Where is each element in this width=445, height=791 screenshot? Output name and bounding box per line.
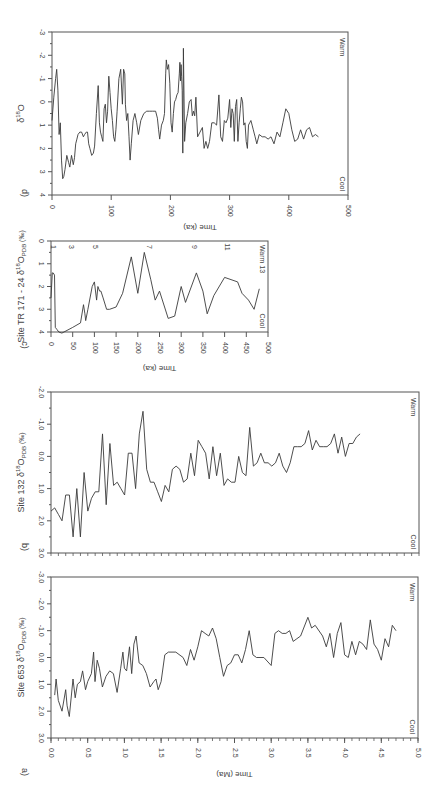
x-tick-label: 3.0 xyxy=(268,748,275,758)
panel-a: -3.0-2.0-1.00.01.02.03.00.00.51.01.52.02… xyxy=(15,571,422,779)
y-tick-label: -2.0 xyxy=(38,598,45,610)
x-tick-label: 400 xyxy=(286,205,293,217)
y-axis-title: Site 653 δ18OPDB (‰) xyxy=(15,617,27,697)
y-axis-title: Site TR 171 - 24 δ18OPDB (‰) xyxy=(15,230,27,343)
y-tick-label: -1 xyxy=(39,75,46,81)
panel-c: 01234050100150200250300350400450500Warm … xyxy=(15,230,272,373)
y-tick-label: -3 xyxy=(39,29,46,35)
y-tick-label: 1.0 xyxy=(38,679,45,689)
x-tick-label: 200 xyxy=(135,342,142,354)
y-tick-label: 1 xyxy=(39,123,46,127)
y-tick-label: 4 xyxy=(38,330,45,334)
isotope-stage-label: 7 xyxy=(146,245,153,249)
x-tick-label: 450 xyxy=(243,342,250,354)
x-tick-label: 50 xyxy=(70,342,77,350)
isotope-stage-label: 11 xyxy=(224,243,231,250)
warm-label: Warm 13 xyxy=(259,245,266,273)
x-tick-label: 0.0 xyxy=(48,748,55,758)
x-tick-label: 300 xyxy=(178,342,185,354)
y-tick-label: 0.0 xyxy=(38,452,45,462)
y-tick-label: 1 xyxy=(38,262,45,266)
cool-label: Cool xyxy=(259,314,266,329)
y-tick-label: 3 xyxy=(39,170,46,174)
isotope-stage-label: 1 xyxy=(50,245,57,249)
x-tick-label: 0 xyxy=(48,342,55,346)
x-tick-label: 5.0 xyxy=(415,748,422,758)
x-tick-label: 400 xyxy=(222,342,229,354)
warm-label: Warm xyxy=(409,583,416,602)
x-tick-label: 500 xyxy=(345,205,352,217)
isotope-stage-label: 3 xyxy=(68,245,75,249)
isotope-stage-label: 5 xyxy=(92,245,99,249)
x-tick-label: 1.0 xyxy=(122,748,129,758)
y-axis-title: δ18O xyxy=(15,104,26,123)
isotope-stage-label: 9 xyxy=(191,245,198,249)
x-tick-label: 250 xyxy=(157,342,164,354)
y-tick-label: 3 xyxy=(38,307,45,311)
cool-label: Cool xyxy=(410,535,417,550)
figure: -3-2-1012340100200300400500WarmCoolTime … xyxy=(0,0,445,791)
y-tick-label: 3.0 xyxy=(38,733,45,743)
x-tick-label: 100 xyxy=(92,342,99,354)
panel-label: c) xyxy=(20,341,30,349)
y-tick-label: -3.0 xyxy=(38,571,45,583)
y-tick-label: 0 xyxy=(39,100,46,104)
x-axis-title: Time (ka) xyxy=(183,223,217,232)
y-tick-label: 3.0 xyxy=(38,548,45,558)
y-tick-label: -1.0 xyxy=(38,625,45,637)
x-tick-label: 0.5 xyxy=(85,748,92,758)
plot-frame xyxy=(51,392,419,553)
data-line xyxy=(52,48,318,178)
y-tick-label: 0 xyxy=(38,239,45,243)
plot-frame xyxy=(51,577,418,738)
y-tick-label: 4 xyxy=(39,193,46,197)
warm-label: Warm xyxy=(339,38,346,57)
data-line xyxy=(55,617,396,716)
y-tick-label: 0.0 xyxy=(38,653,45,663)
x-axis-title: Time (ka) xyxy=(142,364,176,373)
y-tick-label: 2 xyxy=(39,146,46,150)
x-axis-title: Time (Ma) xyxy=(216,770,252,779)
y-tick-label: 2.0 xyxy=(38,706,45,716)
cool-label: Cool xyxy=(409,720,416,735)
x-tick-label: 4.5 xyxy=(378,748,385,758)
y-tick-label: -1.0 xyxy=(38,418,45,430)
panel-label: a) xyxy=(20,768,30,776)
x-tick-label: 1.5 xyxy=(158,748,165,758)
x-tick-label: 300 xyxy=(227,205,234,217)
x-tick-label: 0 xyxy=(49,205,56,209)
plot-frame xyxy=(51,241,268,332)
x-tick-label: 500 xyxy=(265,342,272,354)
panel-label: b) xyxy=(20,543,30,551)
x-tick-label: 350 xyxy=(200,342,207,354)
data-line xyxy=(51,252,259,333)
panel-b: -2.0-1.00.01.02.03.0WarmCoolSite 132 δ18… xyxy=(15,386,419,558)
warm-label: Warm xyxy=(410,398,417,417)
y-axis-title: Site 132 δ18OPDB (‰) xyxy=(15,432,27,512)
x-tick-label: 2.5 xyxy=(232,748,239,758)
y-tick-label: 2.0 xyxy=(38,516,45,526)
y-tick-label: -2.0 xyxy=(38,386,45,398)
x-tick-label: 2.0 xyxy=(195,748,202,758)
y-tick-label: 1.0 xyxy=(38,484,45,494)
data-line xyxy=(51,411,360,537)
x-tick-label: 3.5 xyxy=(305,748,312,758)
y-tick-label: -2 xyxy=(39,52,46,58)
x-tick-label: 150 xyxy=(113,342,120,354)
x-tick-label: 200 xyxy=(168,205,175,217)
x-tick-label: 100 xyxy=(108,205,115,217)
cool-label: Cool xyxy=(339,177,346,192)
y-tick-label: 2 xyxy=(38,285,45,289)
panel-d: -3-2-1012340100200300400500WarmCoolTime … xyxy=(15,29,352,232)
panel-label: d) xyxy=(20,189,30,197)
x-tick-label: 4.0 xyxy=(342,748,349,758)
